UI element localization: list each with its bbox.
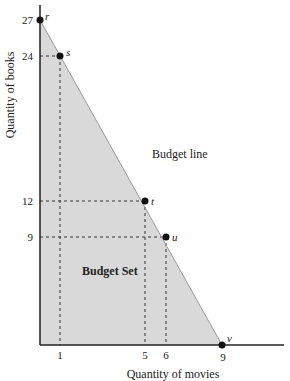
point-label-u: u [172, 231, 178, 243]
point-s [57, 53, 64, 60]
y-tick-12: 12 [22, 195, 33, 207]
point-label-s: s [66, 46, 70, 58]
point-label-r: r [45, 10, 50, 22]
point-t [142, 198, 149, 205]
x-tick-1: 1 [57, 349, 63, 361]
point-v [219, 342, 226, 349]
y-tick-27: 27 [22, 14, 34, 26]
y-axis-label: Quantity of books [3, 51, 17, 138]
point-label-t: t [151, 195, 155, 207]
point-u [163, 234, 170, 241]
y-tick-24: 24 [22, 50, 34, 62]
point-label-v: v [227, 332, 232, 344]
x-tick-9: 9 [220, 351, 226, 363]
x-axis-label: Quantity of movies [127, 367, 220, 381]
budget-line-label: Budget line [152, 147, 208, 161]
x-tick-6: 6 [163, 349, 169, 361]
point-r [37, 17, 44, 24]
x-tick-5: 5 [142, 349, 148, 361]
budget-set-chart: r s t u v 27 24 12 9 1 5 6 9 Budget line… [0, 0, 290, 381]
y-tick-9: 9 [28, 231, 34, 243]
budget-set-label: Budget Set [82, 264, 138, 278]
